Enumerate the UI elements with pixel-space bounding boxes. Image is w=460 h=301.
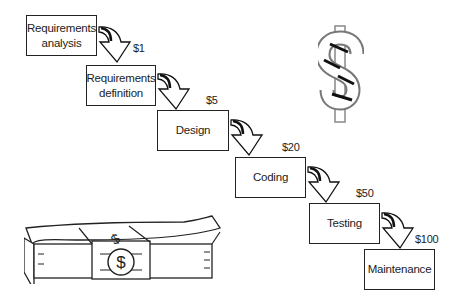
svg-text:$: $ (116, 253, 126, 272)
stage-label: Testing (327, 216, 362, 231)
stage-label: definition (86, 86, 155, 101)
cost-label: $5 (206, 94, 218, 106)
stage-label: Maintenance (368, 262, 432, 277)
cost-label: $50 (356, 187, 373, 199)
stage-coding: Coding (235, 157, 306, 198)
stage-label: Requirements (27, 21, 96, 36)
curved-arrow-icon (156, 71, 196, 113)
curved-arrow-icon (229, 117, 269, 159)
cost-label: $100 (415, 233, 438, 245)
dollar-sign-icon (318, 24, 364, 124)
stage-requirements-definition: Requirementsdefinition (86, 65, 156, 106)
stage-label: analysis (27, 36, 96, 51)
curved-arrow-icon (306, 164, 346, 206)
stage-maintenance: Maintenance (364, 249, 435, 290)
money-stack-icon: $ $ (24, 214, 224, 284)
stage-label: Coding (253, 170, 288, 185)
stage-design: Design (157, 110, 229, 151)
stage-label: Requirements (86, 71, 155, 86)
curved-arrow-icon (380, 210, 420, 252)
stage-label: Design (176, 123, 211, 138)
cost-label: $1 (133, 42, 145, 54)
stage-testing: Testing (309, 203, 380, 244)
curved-arrow-icon (97, 24, 137, 66)
stage-requirements-analysis: Requirementsanalysis (26, 15, 97, 56)
cost-label: $20 (282, 141, 299, 153)
